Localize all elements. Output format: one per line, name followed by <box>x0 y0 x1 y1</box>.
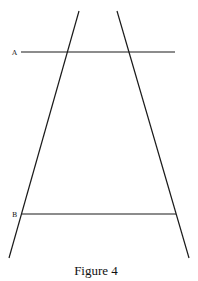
right-converging-line <box>117 11 189 258</box>
label-a: A <box>11 49 18 57</box>
label-b: B <box>12 211 17 219</box>
ponzo-illusion-figure: A B Figure 4 <box>0 0 198 281</box>
figure-caption: Figure 4 <box>74 263 118 278</box>
left-converging-line <box>9 11 79 258</box>
